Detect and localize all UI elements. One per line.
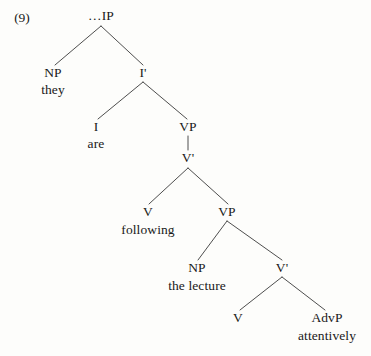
tree-node-v1: V xyxy=(143,205,153,219)
tree-edge-vbar2-v2 xyxy=(240,277,282,310)
tree-edge-vbar1-v1 xyxy=(149,168,188,204)
tree-terminal-t-attentively: attentively xyxy=(298,329,356,343)
tree-terminal-t-the-lecture: the lecture xyxy=(168,279,226,293)
tree-node-ibar: I' xyxy=(139,66,146,80)
tree-edges-layer xyxy=(0,0,371,356)
tree-terminal-t-following: following xyxy=(121,223,174,237)
tree-edge-vbar1-vp2 xyxy=(188,168,228,204)
tree-terminal-t-are: are xyxy=(88,137,105,151)
tree-node-v2: V xyxy=(233,311,243,325)
tree-edge-vp2-np2 xyxy=(198,221,227,260)
tree-node-np1: NP xyxy=(44,66,61,80)
tree-node-ip: …IP xyxy=(88,9,114,23)
tree-node-vp1: VP xyxy=(179,120,196,134)
tree-edge-ip-ibar xyxy=(101,26,143,65)
syntax-tree-figure: (9) …IPNPI'IVPV'VVPNPV'VAdvP theyarefoll… xyxy=(0,0,371,356)
tree-node-np2: NP xyxy=(188,261,205,275)
tree-edge-ibar-vp1 xyxy=(143,82,187,119)
tree-edge-vp2-vbar2 xyxy=(227,221,282,260)
tree-edge-vbar2-advp xyxy=(282,277,325,310)
tree-node-advp: AdvP xyxy=(311,311,342,325)
tree-edge-ibar-i xyxy=(98,82,143,119)
tree-node-vp2: VP xyxy=(218,205,235,219)
tree-node-i: I xyxy=(94,120,99,134)
tree-edge-ip-np1 xyxy=(55,26,101,65)
tree-node-vbar1: V' xyxy=(182,151,194,165)
tree-node-vbar2: V' xyxy=(276,261,288,275)
tree-terminal-t-they: they xyxy=(41,83,65,97)
example-number-label: (9) xyxy=(14,11,30,25)
